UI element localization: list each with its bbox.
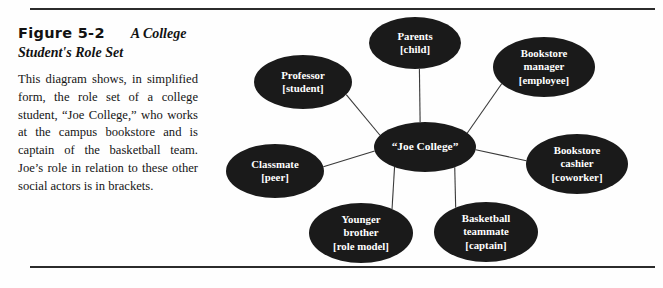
figure-page: Figure 5-2A College Student's Role Set T… [0, 0, 663, 288]
figure-caption-block: Figure 5-2A College Student's Role Set T… [18, 24, 198, 196]
spoke-line [346, 95, 380, 136]
node-classmate: Classmate [peer] [226, 144, 324, 198]
node-label: “Joe College” [392, 140, 459, 154]
node-label: Younger brother [role model] [333, 213, 389, 253]
spoke-line [467, 84, 501, 133]
node-label: Bookstore cashier [coworker] [552, 144, 603, 184]
spoke-line [419, 69, 420, 122]
node-joe-college: “Joe College” [374, 122, 476, 172]
node-younger-brother: Younger brother [role model] [309, 203, 413, 263]
figure-number: Figure 5-2 [18, 25, 105, 41]
spoke-line [476, 150, 527, 161]
node-parents: Parents [child] [369, 17, 461, 69]
node-label: Parents [child] [397, 30, 432, 56]
spoke-line [323, 151, 374, 167]
node-label: Professor [student] [281, 69, 325, 95]
node-bookstore-manager: Bookstore manager [employee] [493, 37, 595, 97]
spoke-line [392, 167, 395, 209]
role-set-diagram: Parents [child]Bookstore manager [employ… [200, 10, 650, 260]
node-label: Basketball teammate [captain] [462, 212, 511, 252]
node-basketball-teammate: Basketball teammate [captain] [434, 202, 538, 262]
node-professor: Professor [student] [254, 55, 352, 109]
node-bookstore-cashier: Bookstore cashier [coworker] [526, 134, 628, 194]
node-label: Bookstore manager [employee] [519, 47, 569, 87]
bottom-divider-rule [30, 266, 655, 268]
node-label: Classmate [peer] [251, 158, 298, 184]
figure-caption-text: This diagram shows, in simplified form, … [18, 71, 198, 196]
spoke-line [455, 167, 456, 207]
figure-heading: Figure 5-2A College Student's Role Set [18, 24, 198, 62]
